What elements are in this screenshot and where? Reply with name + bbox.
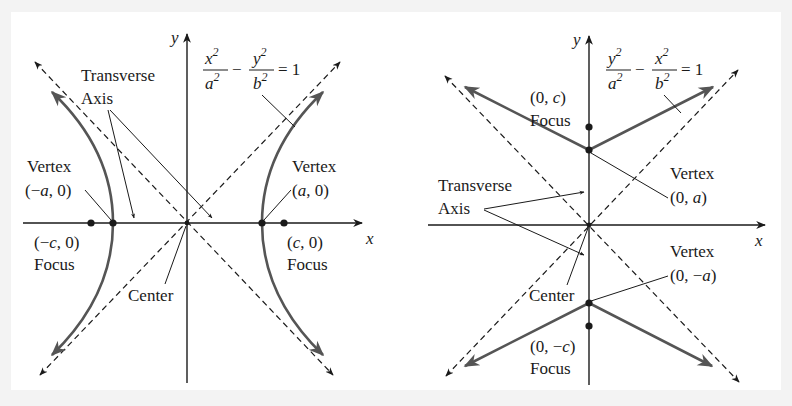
svg-text:y2: y2 (606, 45, 622, 68)
svg-text:a2: a2 (205, 70, 220, 93)
svg-text:x2: x2 (204, 45, 219, 68)
vertex-right-point (258, 219, 265, 226)
vertex-right-leader (264, 190, 291, 220)
focus-left-point (87, 219, 94, 226)
equation-horizontal: x2 a2 − y2 b2 = 1 (203, 45, 300, 93)
vertex-top-leader (591, 153, 668, 198)
svg-text:−: − (232, 60, 242, 79)
vertex-left-point (109, 219, 116, 226)
transverse-axis-label-line1: Transverse (81, 66, 155, 85)
transverse-leader-2 (110, 110, 212, 218)
hyperbola-figure: x y x2 a2 − y2 b2 = 1 Transverse Axis (0, 0, 792, 406)
svg-text:= 1: = 1 (278, 60, 300, 79)
vertex-bottom-coord: (0, −a) (670, 266, 716, 285)
x-axis-label: x (365, 229, 374, 248)
vertex-top-label: Vertex (670, 164, 715, 183)
focus-bottom-coord: (0, −c) (530, 337, 575, 356)
focus-bottom-point (585, 322, 592, 329)
asymptote-positive (446, 70, 738, 376)
svg-text:b2: b2 (655, 70, 670, 93)
focus-top-point (585, 123, 592, 130)
right-diagram: x y y2 a2 − x2 b2 = 1 (0, c) Focus (0, −… (428, 30, 765, 385)
vertex-right-label: Vertex (292, 157, 337, 176)
center-leader (165, 226, 186, 284)
transverse-axis-label-line1: Transverse (438, 176, 512, 195)
y-axis-label: y (571, 30, 581, 49)
vertex-right-coord: (a, 0) (292, 181, 329, 200)
focus-left-coord: (−c, 0) (34, 233, 79, 252)
focus-top-label: Focus (530, 111, 571, 130)
focus-right-label: Focus (287, 255, 328, 274)
left-diagram: x y x2 a2 − y2 b2 = 1 Transverse Axis (23, 28, 374, 383)
focus-right-point (280, 219, 287, 226)
focus-bottom-label: Focus (530, 359, 571, 378)
center-point (587, 223, 592, 228)
center-point (185, 221, 190, 226)
focus-right-coord: (c, 0) (287, 233, 323, 252)
equation-vertical: y2 a2 − x2 b2 = 1 (606, 45, 703, 93)
vertex-left-leader (85, 190, 111, 220)
center-label: Center (128, 286, 174, 305)
vertex-bottom-leader (591, 276, 668, 301)
equation-leader (262, 95, 295, 127)
vertex-left-coord: (−a, 0) (25, 181, 71, 200)
y-axis-label: y (169, 28, 179, 47)
vertex-left-label: Vertex (27, 157, 72, 176)
x-axis-label: x (754, 231, 763, 250)
vertex-bottom-label: Vertex (670, 242, 715, 261)
svg-text:−: − (635, 60, 645, 79)
asymptote-negative (445, 76, 739, 382)
center-label: Center (529, 286, 575, 305)
svg-text:x2: x2 (654, 45, 669, 68)
svg-text:a2: a2 (608, 70, 623, 93)
transverse-leader-2 (484, 210, 584, 255)
svg-text:b2: b2 (253, 70, 268, 93)
svg-text:= 1: = 1 (681, 60, 703, 79)
vertex-top-coord: (0, a) (670, 188, 707, 207)
center-leader (567, 228, 588, 285)
svg-text:y2: y2 (251, 45, 267, 68)
asymptote-positive (40, 62, 340, 375)
transverse-axis-label-line2: Axis (438, 199, 470, 218)
asymptote-negative (35, 62, 333, 375)
transverse-axis-label-line2: Axis (81, 89, 113, 108)
vertex-top-point (585, 146, 592, 153)
focus-left-label: Focus (34, 255, 75, 274)
focus-top-coord: (0, c) (530, 88, 566, 107)
